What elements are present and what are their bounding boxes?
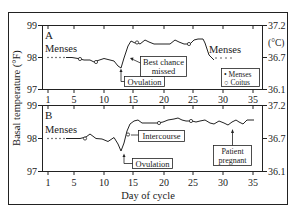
panel-a-temperature-line xyxy=(66,39,214,68)
svg-text:10: 10 xyxy=(99,94,109,105)
svg-text:1: 1 xyxy=(46,177,51,188)
panel-b-right-axis xyxy=(263,106,268,172)
svg-text:35: 35 xyxy=(248,94,258,105)
panel-b-ovulation-pointer xyxy=(124,156,133,164)
svg-text:35: 35 xyxy=(248,177,258,188)
panel-a-ovulation-pointer xyxy=(121,71,125,82)
bbt-chart-figure: Basal temperature (°F) 99 98 97 37.2 (°C… xyxy=(0,0,296,221)
svg-text:20: 20 xyxy=(159,94,169,105)
panel-b-bottom-ticks xyxy=(48,172,253,176)
panel-b-ctick-361: 36.1 xyxy=(268,166,286,177)
panel-a-menses-end-dots xyxy=(215,57,231,58)
patient-pregnant-arrow-icon xyxy=(231,129,234,133)
panel-a-menses-end-label: Menses xyxy=(209,44,241,55)
panel-b-ovulation-label: Ovulation xyxy=(136,159,171,169)
panel-a-ovulation-label: Ovulation xyxy=(128,77,163,87)
panel-b-ytick-97: 97 xyxy=(27,166,37,177)
legend-coitus: ○ Coitus xyxy=(224,78,250,87)
panel-b-top-ticks xyxy=(48,106,253,110)
svg-text:5: 5 xyxy=(72,94,77,105)
best-chance-missed-line2: missed xyxy=(152,66,176,76)
panel-a-ctick-361: 36.1 xyxy=(268,84,286,95)
panel-b-xtick-labels: 1 5 10 15 20 25 30 35 xyxy=(46,177,259,188)
panel-b-ovulation-arrow-icon xyxy=(123,154,126,158)
svg-text:30: 30 xyxy=(218,177,228,188)
panel-b: 99 98 97 37.2 36.7 36.1 1 5 10 15 20 xyxy=(27,100,286,201)
panel-a-ctick-367: 36.7 xyxy=(268,52,286,63)
panel-b-ytick-99: 99 xyxy=(27,100,37,111)
panel-a-ytick-98: 98 xyxy=(27,52,37,63)
panel-a-c-unit: (°C) xyxy=(268,38,284,49)
panel-b-ctick-372: 37.2 xyxy=(268,100,286,111)
patient-pregnant-line2: pregnant xyxy=(219,156,248,165)
panel-b-menses-label: Menses xyxy=(45,124,77,135)
intercourse-label: Intercourse xyxy=(142,131,180,141)
panel-b-ytick-98: 98 xyxy=(27,133,37,144)
svg-text:20: 20 xyxy=(159,177,169,188)
panel-a-ovulation-arrow-icon xyxy=(120,69,123,73)
panel-a-ctick-372: 37.2 xyxy=(268,20,286,31)
panel-b-menses-dots xyxy=(47,138,64,139)
x-axis-label: Day of cycle xyxy=(121,190,175,201)
best-chance-arrow-icon xyxy=(130,58,134,62)
panel-a-left-axis xyxy=(38,26,43,90)
svg-text:15: 15 xyxy=(128,177,138,188)
panel-a-xtick-labels: 1 5 10 15 20 25 30 35 xyxy=(46,94,259,105)
panel-a-menses-start-label: Menses xyxy=(45,43,77,54)
panel-a-right-axis xyxy=(263,26,268,90)
svg-text:25: 25 xyxy=(188,94,198,105)
panel-b-left-axis xyxy=(38,106,43,172)
panel-a: 99 98 97 37.2 (°C) 36.7 36.1 1 5 xyxy=(27,20,286,105)
panel-b-ctick-367: 36.7 xyxy=(268,133,286,144)
svg-text:15: 15 xyxy=(128,94,138,105)
patient-pregnant-line1: Patient xyxy=(221,147,244,156)
panel-a-ytick-97: 97 xyxy=(27,84,37,95)
panel-a-ytick-99: 99 xyxy=(27,20,37,31)
svg-text:25: 25 xyxy=(188,177,198,188)
panel-a-top-ticks xyxy=(48,26,253,30)
panel-a-menses-dots xyxy=(47,57,64,58)
panel-a-title: A xyxy=(45,29,53,41)
panel-a-bottom-ticks xyxy=(48,90,253,94)
svg-text:10: 10 xyxy=(99,177,109,188)
y-axis-label: Basal temperature (°F) xyxy=(11,50,23,146)
best-chance-missed-pointer xyxy=(132,59,141,63)
svg-text:5: 5 xyxy=(72,177,77,188)
svg-text:1: 1 xyxy=(46,94,51,105)
svg-text:30: 30 xyxy=(218,94,228,105)
panel-b-title: B xyxy=(45,109,52,121)
